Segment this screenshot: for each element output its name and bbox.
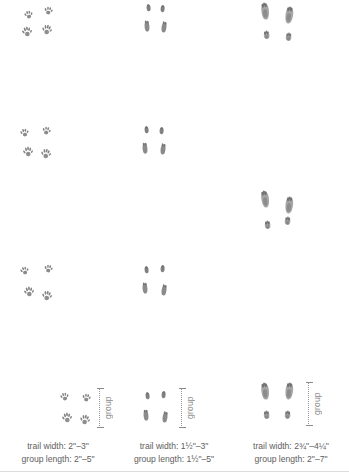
- track-print-long-hind-icon: [284, 5, 296, 25]
- track-print-small-front-icon: [59, 391, 70, 402]
- track-print-narrow-hind-icon: [160, 21, 169, 35]
- track-print-round-front-icon: [284, 32, 293, 43]
- track-print-small-hind-icon: [21, 25, 32, 37]
- track-print-small-front-icon: [43, 5, 53, 15]
- track-print-narrow-front-icon: [145, 392, 152, 401]
- group-bracket-icon: [99, 388, 100, 428]
- track-print-small-hind-icon: [41, 23, 52, 35]
- trail-width-text: trail width: 2"–3": [0, 440, 116, 453]
- caption-rabbit: trail width: 2¾"–4¼" group length: 2"–7": [233, 440, 349, 466]
- track-print-small-front-icon: [81, 392, 91, 402]
- track-print-narrow-front-icon: [146, 4, 153, 13]
- trail-width-text: trail width: 2¾"–4¼": [233, 440, 349, 453]
- track-print-round-front-icon: [284, 410, 293, 421]
- track-print-narrow-front-icon: [161, 391, 168, 400]
- track-print-round-front-icon: [264, 220, 273, 231]
- track-print-long-hind-icon: [284, 196, 295, 216]
- track-print-small-front-icon: [19, 127, 29, 137]
- trail-width-text: trail width: 1½"–3": [116, 440, 232, 453]
- track-print-small-hind-icon: [40, 148, 51, 160]
- group-length-text: group length: 2"–5": [0, 453, 116, 466]
- track-print-narrow-front-icon: [160, 265, 167, 274]
- group-label: group: [103, 388, 113, 428]
- track-print-round-front-icon: [263, 410, 272, 421]
- caption-squirrel: trail width: 2"–3" group length: 2"–5": [0, 440, 116, 466]
- track-print-small-front-icon: [19, 265, 30, 276]
- track-field: group: [233, 0, 349, 430]
- group-label: group: [312, 382, 322, 426]
- group-length-text: group length: 1½"–5": [116, 453, 232, 466]
- track-column-rabbit: group trail width: 2¾"–4¼" group length:…: [233, 0, 349, 472]
- track-print-long-hind-icon: [284, 382, 295, 402]
- track-print-long-hind-icon: [260, 2, 271, 22]
- group-length-marker: group: [305, 382, 331, 426]
- track-print-narrow-hind-icon: [144, 20, 152, 33]
- track-field: group: [0, 0, 116, 430]
- track-field: group: [116, 0, 232, 430]
- track-print-long-hind-icon: [260, 382, 271, 402]
- group-bracket-icon: [308, 382, 309, 426]
- track-print-small-hind-icon: [41, 290, 52, 302]
- group-length-text: group length: 2"–7": [233, 453, 349, 466]
- track-print-small-hind-icon: [61, 411, 72, 423]
- track-column-squirrel: group trail width: 2"–3" group length: 2…: [0, 0, 116, 472]
- track-print-small-front-icon: [43, 263, 53, 273]
- group-length-marker: group: [178, 388, 204, 428]
- track-print-narrow-hind-icon: [160, 284, 169, 298]
- track-print-small-hind-icon: [79, 413, 90, 425]
- track-guide-page: group trail width: 2"–3" group length: 2…: [0, 0, 349, 472]
- track-print-narrow-front-icon: [144, 266, 151, 275]
- track-print-small-hind-icon: [23, 285, 34, 297]
- track-print-narrow-hind-icon: [161, 411, 170, 425]
- track-print-narrow-front-icon: [160, 5, 167, 14]
- caption-mouse: trail width: 1½"–3" group length: 1½"–5": [116, 440, 232, 466]
- track-print-small-front-icon: [41, 125, 52, 136]
- track-print-small-hind-icon: [22, 146, 33, 158]
- track-print-narrow-hind-icon: [159, 143, 168, 157]
- group-label: group: [185, 388, 195, 428]
- track-print-narrow-front-icon: [159, 127, 166, 135]
- track-print-round-front-icon: [263, 30, 272, 41]
- track-print-small-front-icon: [23, 9, 34, 20]
- track-print-narrow-front-icon: [144, 126, 151, 134]
- track-print-round-front-icon: [283, 216, 292, 227]
- track-print-narrow-hind-icon: [141, 142, 149, 156]
- track-print-narrow-hind-icon: [142, 282, 150, 295]
- group-bracket-icon: [181, 388, 182, 428]
- track-print-narrow-hind-icon: [142, 409, 150, 423]
- track-print-long-hind-icon: [260, 189, 272, 209]
- track-column-mouse: group trail width: 1½"–3" group length: …: [116, 0, 232, 472]
